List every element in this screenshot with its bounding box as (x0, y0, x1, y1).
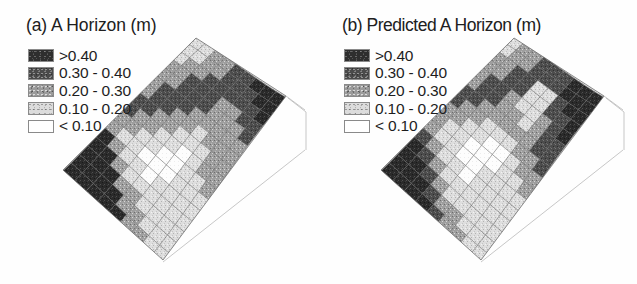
legend-swatch-icon (28, 120, 54, 133)
surface-block-b (318, 0, 636, 284)
legend-row: 0.10 - 0.20 (28, 100, 131, 118)
legend-label: 0.30 - 0.40 (375, 64, 447, 82)
legend-swatch-icon (344, 120, 370, 133)
legend-label: >0.40 (375, 47, 413, 65)
legend-swatch-icon (28, 102, 54, 115)
legend-label: >0.40 (59, 47, 97, 65)
legend-row: 0.30 - 0.40 (344, 65, 447, 83)
legend-label: 0.10 - 0.20 (375, 100, 447, 118)
legend-row: 0.10 - 0.20 (344, 100, 447, 118)
legend-swatch-icon (344, 49, 370, 62)
legend-a: >0.40 0.30 - 0.40 0.20 - 0.30 0.10 - 0.2… (28, 47, 131, 135)
panel-a: (a) A Horizon (m) >0.40 0.30 - 0.40 0.20… (0, 0, 318, 284)
legend-row: < 0.10 (344, 117, 447, 135)
panel-a-title: (a) A Horizon (m) (26, 15, 157, 36)
legend-row: >0.40 (344, 47, 447, 65)
legend-swatch-icon (344, 67, 370, 80)
legend-label: 0.20 - 0.30 (375, 82, 447, 100)
legend-row: 0.30 - 0.40 (28, 65, 131, 83)
legend-b: >0.40 0.30 - 0.40 0.20 - 0.30 0.10 - 0.2… (344, 47, 447, 135)
legend-label: 0.10 - 0.20 (59, 100, 131, 118)
surface-svg-a (0, 0, 318, 284)
panel-b: (b) Predicted A Horizon (m) >0.40 0.30 -… (318, 0, 636, 284)
legend-swatch-icon (28, 67, 54, 80)
legend-row: 0.20 - 0.30 (344, 82, 447, 100)
legend-row: >0.40 (28, 47, 131, 65)
surface-svg-b (318, 0, 636, 284)
panel-b-title: (b) Predicted A Horizon (m) (342, 15, 541, 36)
legend-swatch-icon (28, 49, 54, 62)
legend-label: < 0.10 (59, 117, 101, 135)
legend-label: < 0.10 (375, 117, 417, 135)
legend-label: 0.20 - 0.30 (59, 82, 131, 100)
legend-row: < 0.10 (28, 117, 131, 135)
legend-swatch-icon (28, 84, 54, 97)
legend-row: 0.20 - 0.30 (28, 82, 131, 100)
legend-swatch-icon (344, 102, 370, 115)
legend-swatch-icon (344, 84, 370, 97)
surface-block-a (0, 0, 318, 284)
legend-label: 0.30 - 0.40 (59, 64, 131, 82)
